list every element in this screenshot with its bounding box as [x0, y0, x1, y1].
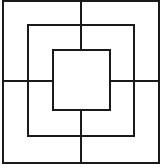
- morris-board: [0, 0, 165, 168]
- inner-square: [53, 50, 110, 110]
- board-connectors: [3, 1, 159, 163]
